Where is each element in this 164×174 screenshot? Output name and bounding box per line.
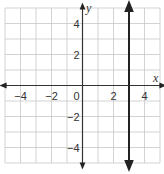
x-tick-label: −2 [45,90,58,102]
y-tick-label: −4 [67,142,80,154]
x-tick-label: −4 [14,90,27,102]
y-axis-label: y [85,1,92,15]
x-tick-label: 0 [73,90,79,102]
coordinate-plane: −4−202442−2−4 x y [0,0,164,174]
y-tick-label: 4 [73,18,79,30]
axes [3,6,163,166]
y-tick-label: 2 [73,49,79,61]
x-tick-label: 2 [110,90,116,102]
x-tick-label: 4 [141,90,147,102]
x-axis-label: x [152,71,159,85]
y-tick-label: −2 [67,111,80,123]
